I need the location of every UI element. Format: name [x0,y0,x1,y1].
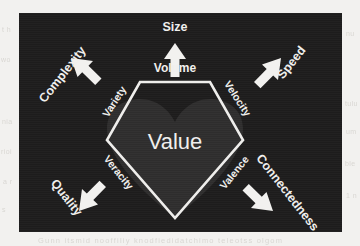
page-ghost-text: wo [1,56,11,63]
page-ghost-text: rioi [1,148,12,155]
page-ghost-text: s [2,206,6,213]
outer-label-quality: Quality [48,177,85,219]
page-ghost-text: um [346,128,357,135]
page-ghost-text: t h [2,26,11,33]
figure-caption-ghost: Gunn itsmid nooffiliy knodfiedidatchimo … [38,236,283,245]
arrow-connectedness-icon [243,184,274,211]
page-ghost-text: 1 n [346,192,357,199]
inner-label-volume: Volume [154,61,197,75]
page-ghost-text: nia [2,118,13,125]
heart-icon [107,99,243,218]
page-ghost-text: tulu [345,100,358,107]
page-ghost-text: nu [346,30,355,37]
outer-label-complexity: Complexity [36,44,89,106]
core-label-value: Value [148,129,203,154]
outer-label-size: Size [162,20,187,34]
page-ghost-text: ble [345,160,356,167]
outer-label-connectedness: Connectedness [253,152,321,232]
big-data-value-diagram: Size Complexity Speed Quality Connectedn… [19,13,342,232]
page-ghost-text: a r [3,178,12,185]
